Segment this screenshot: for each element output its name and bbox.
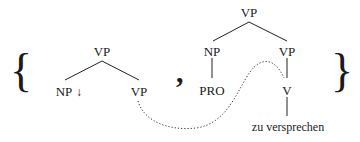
right-tree-vp-node: VP: [279, 44, 296, 59]
edge-left-root-to-np: [65, 61, 102, 80]
right-tree-root-vp: VP: [241, 5, 258, 20]
left-tree-np-node: NP: [56, 84, 73, 99]
right-tree: VP NP VP PRO V zu versprechen: [199, 5, 324, 134]
left-tree-vp-node: VP: [131, 84, 148, 99]
edge-right-root-to-np: [213, 22, 249, 41]
edge-left-root-to-vp: [102, 61, 139, 80]
close-brace: }: [331, 45, 353, 96]
substitution-arrow-icon: ↓: [76, 85, 82, 99]
right-tree-np-node: NP: [204, 44, 221, 59]
left-tree: VP NP ↓ VP: [56, 44, 148, 99]
right-tree-leaf: zu versprechen: [252, 120, 324, 134]
tree-diagram: { } VP NP ↓ VP , VP NP VP PRO V zu versp…: [0, 0, 360, 142]
right-tree-pro-node: PRO: [199, 83, 224, 98]
edge-right-root-to-vp: [249, 22, 287, 41]
open-brace: {: [10, 45, 32, 96]
comma-separator: ,: [176, 55, 184, 88]
left-tree-root-vp: VP: [94, 44, 111, 59]
right-tree-v-node: V: [282, 83, 292, 98]
